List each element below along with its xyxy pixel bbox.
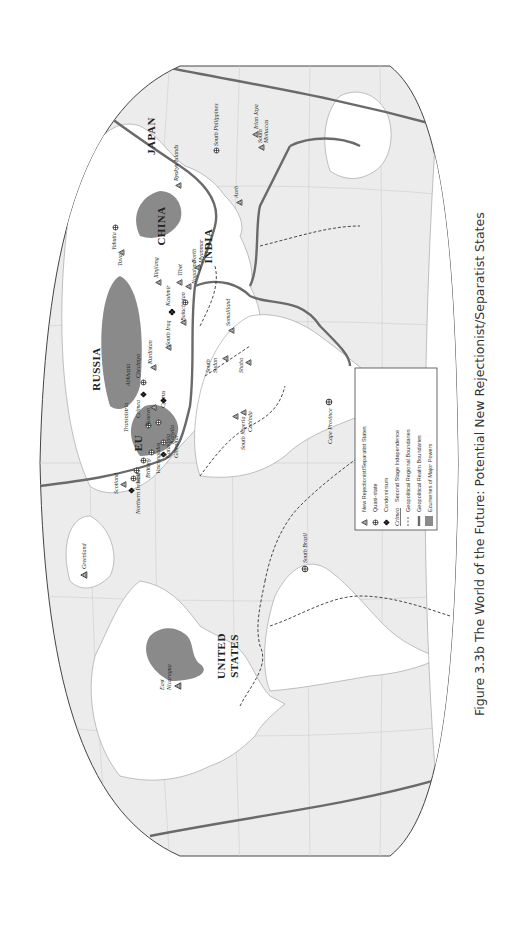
quasi-state-icon bbox=[373, 520, 378, 525]
label-russia: RUSSIA bbox=[90, 347, 102, 390]
label-baluchistan: Baluchistan bbox=[180, 292, 186, 321]
label-south-nigeria: South Nigeria bbox=[240, 416, 246, 450]
label-greenland: Greenland bbox=[81, 543, 87, 569]
legend-label-separatist: New Rejectionist/Separatist States bbox=[361, 426, 367, 512]
label-transnistria: Transnistria bbox=[123, 403, 129, 432]
label-united-states-1: UNITED bbox=[215, 633, 227, 679]
label-north-myanmar-2: Myanmar bbox=[198, 239, 204, 264]
ecumene-swatch bbox=[425, 516, 433, 526]
label-east-nicaragua-2: Nicaragua bbox=[166, 664, 172, 691]
label-chechnya: Chechnya bbox=[135, 354, 141, 378]
label-kashmir: Kashmir bbox=[165, 285, 171, 307]
quasi-state-icon bbox=[113, 225, 118, 230]
label-eu: EU bbox=[132, 435, 144, 451]
label-abkhazia: Abkhazia bbox=[125, 364, 131, 387]
legend-label-regional-boundaries: Geopolitical Regional Boundaries bbox=[405, 429, 411, 512]
label-irian-jaya: Irian Jaya bbox=[253, 104, 259, 130]
legend-label-second-stage: Second Stage Independence bbox=[394, 430, 400, 502]
label-aceh: Aceh bbox=[233, 186, 239, 199]
label-nagaland: Nagaland bbox=[191, 259, 197, 285]
label-east-nicaragua-1: East bbox=[159, 679, 165, 691]
legend: New Rejectionist/Separatist States Quasi… bbox=[355, 368, 437, 530]
quasi-state-icon bbox=[156, 420, 161, 425]
quasi-state-icon bbox=[183, 300, 188, 305]
quasi-state-icon bbox=[141, 458, 146, 463]
label-south-sudan-1: South bbox=[205, 359, 211, 373]
rotated-figure: UNITED STATES RUSSIA CHINA JAPAN INDIA E… bbox=[0, 0, 513, 926]
quasi-state-icon bbox=[149, 450, 154, 455]
label-south-moluccas-2: Moluccas bbox=[263, 119, 269, 144]
label-south-iraq: South Iraq bbox=[165, 321, 171, 347]
legend-label-quasi-state: Quasi-state bbox=[372, 483, 378, 512]
label-kabylia: Kabylia bbox=[169, 425, 175, 445]
legend-label-realm-boundaries: Geopolitical Realm Boundaries bbox=[416, 435, 422, 512]
label-united-states-2: STATES bbox=[228, 634, 240, 678]
label-cape-province: Cape Province bbox=[327, 408, 333, 444]
label-china: CHINA bbox=[155, 206, 167, 245]
label-xinjiang: Xinjiang bbox=[153, 257, 159, 279]
quasi-state-icon bbox=[161, 440, 166, 445]
label-kosovo: Kosovo bbox=[145, 408, 151, 427]
label-somaliland: Somaliland bbox=[225, 298, 231, 326]
legend-label-condominium: Condominium bbox=[383, 477, 389, 512]
label-cabinda: Cabinda bbox=[247, 411, 253, 432]
label-tibet: Tibet bbox=[177, 264, 183, 276]
label-south-philippines: South Philippines bbox=[213, 103, 219, 146]
label-ryukyu: Ryukyu Islands bbox=[173, 144, 179, 182]
label-shaba: Shaba bbox=[238, 358, 244, 373]
legend-sample-crimea: Crimea bbox=[394, 508, 400, 526]
world-map: UNITED STATES RUSSIA CHINA JAPAN INDIA E… bbox=[0, 0, 513, 926]
label-tuva: Tuva bbox=[117, 254, 123, 266]
label-yakutia: Yakutia bbox=[111, 232, 117, 250]
quasi-state-icon bbox=[302, 566, 308, 572]
label-south-brazil: South Brazil bbox=[302, 533, 308, 563]
figure-caption: Figure 3.3b The World of the Future: Pot… bbox=[472, 212, 487, 716]
quasi-state-icon bbox=[326, 399, 332, 405]
label-vascongadas: Vascongadas bbox=[155, 442, 161, 474]
label-crimea: Crimea bbox=[135, 400, 141, 418]
quasi-state-icon bbox=[214, 148, 219, 153]
label-kurdistan: Kurdistan bbox=[147, 340, 153, 365]
legend-label-ecumenes: Ecumenes of Major Powers bbox=[427, 443, 433, 512]
label-north-myanmar-1: North bbox=[191, 249, 197, 264]
quasi-state-icon bbox=[141, 380, 146, 385]
quasi-state-icon bbox=[134, 468, 139, 473]
label-south-sudan-2: Sudan bbox=[212, 358, 218, 373]
label-scotland: Scotland bbox=[113, 472, 119, 494]
label-japan: JAPAN bbox=[145, 117, 157, 155]
